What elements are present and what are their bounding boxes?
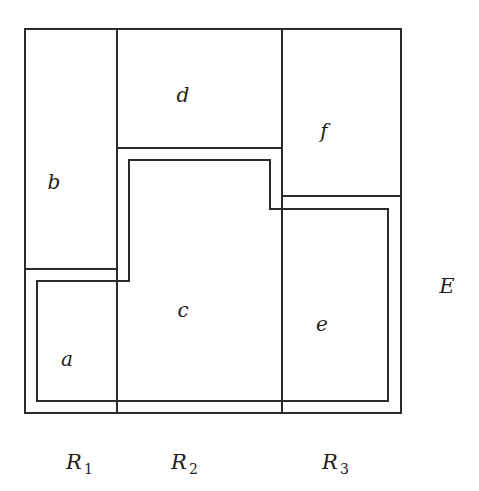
svg-text:1: 1	[84, 461, 93, 477]
column-label-r3: R 3	[321, 450, 349, 477]
svg-text:2: 2	[189, 461, 198, 477]
cell-label-d: d	[177, 83, 190, 107]
region-diagram: a b c d e f E R 1 R 2 R 3	[0, 0, 479, 491]
svg-text:R: R	[170, 450, 187, 474]
svg-text:R: R	[321, 450, 338, 474]
cell-label-e: e	[316, 312, 328, 336]
outside-label-e: E	[438, 274, 454, 298]
cell-label-f: f	[318, 119, 331, 143]
column-label-r2: R 2	[170, 450, 198, 477]
cell-label-a: a	[61, 347, 73, 371]
svg-text:3: 3	[340, 461, 349, 477]
column-label-r1: R 1	[65, 450, 93, 477]
outer-frame	[25, 29, 401, 413]
cell-label-c: c	[177, 298, 188, 322]
cell-label-b: b	[48, 170, 61, 194]
svg-text:R: R	[65, 450, 82, 474]
